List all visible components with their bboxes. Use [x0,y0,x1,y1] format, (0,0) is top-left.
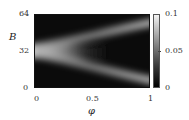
x-axis-label: φ [88,105,95,116]
y-axis-label: B [9,31,16,42]
colorbar-tick-0-05: 0.05 [165,47,183,55]
x-tick-0-5: 0.5 [86,95,99,103]
y-tick-0: 0 [23,84,28,92]
x-tick-1: 1 [148,95,153,103]
colorbar-tick-0-1: 0.1 [165,10,178,18]
colorbar-tick-0: 0 [165,84,170,92]
x-tick-0: 0 [34,95,39,103]
colorbar-tick-mark [158,51,161,52]
heatmap-image [34,14,150,88]
y-tick-32: 32 [19,47,29,55]
y-tick-64: 64 [19,10,29,18]
heatmap-plot [34,14,150,88]
